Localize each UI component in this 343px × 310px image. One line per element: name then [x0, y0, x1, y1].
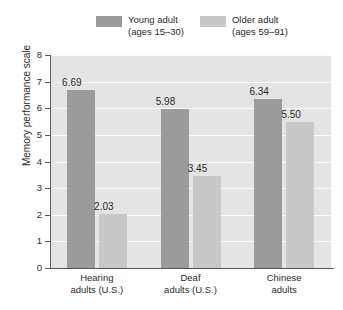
x-axis-category-label-line1: Chinese	[234, 272, 334, 284]
bar	[286, 122, 314, 268]
legend-item-young-adult: Young adult (ages 15–30)	[96, 14, 184, 37]
x-axis-category-label: Deafadults (U.S.)	[141, 272, 241, 296]
bar-value-label: 6.34	[236, 87, 282, 97]
legend-swatch-older-adult	[200, 16, 226, 27]
y-axis-tick	[45, 268, 50, 269]
y-axis-tick-label: 4	[0, 157, 42, 167]
y-axis-tick	[45, 241, 50, 242]
x-axis-line	[50, 268, 334, 269]
legend-label-young-adult-line2: (ages 15–30)	[128, 26, 184, 38]
x-axis-category-label: Hearingadults (U.S.)	[47, 272, 147, 296]
y-axis-tick-label: 0	[0, 263, 42, 273]
legend-label-young-adult: Young adult (ages 15–30)	[128, 14, 184, 37]
bar	[99, 214, 127, 268]
y-axis-tick	[45, 188, 50, 189]
y-axis-tick-label: 6	[0, 103, 42, 113]
y-axis-tick	[45, 215, 50, 216]
legend-item-older-adult: Older adult (ages 59–91)	[200, 14, 288, 37]
y-axis-tick	[45, 162, 50, 163]
memory-performance-bar-chart: Young adult (ages 15–30) Older adult (ag…	[0, 0, 343, 310]
legend-label-older-adult-line1: Older adult	[232, 14, 288, 26]
bar	[67, 90, 95, 268]
y-axis-tick-label: 8	[0, 50, 42, 60]
bar	[254, 99, 282, 268]
bar	[193, 176, 221, 268]
legend-swatch-young-adult	[96, 16, 122, 27]
chart-legend: Young adult (ages 15–30) Older adult (ag…	[96, 14, 288, 37]
x-axis-category-label-line2: adults	[234, 284, 334, 296]
bar-value-label: 5.98	[143, 97, 189, 107]
y-axis-tick-label: 7	[0, 77, 42, 87]
x-axis-category-label-line2: adults (U.S.)	[47, 284, 147, 296]
y-axis-tick-label: 3	[0, 183, 42, 193]
legend-label-young-adult-line1: Young adult	[128, 14, 184, 26]
y-axis-tick	[45, 135, 50, 136]
x-axis-category-label-line1: Deaf	[141, 272, 241, 284]
x-axis-category-label-line2: adults (U.S.)	[141, 284, 241, 296]
bar	[161, 109, 189, 268]
legend-label-older-adult-line2: (ages 59–91)	[232, 26, 288, 38]
bar-value-label: 2.03	[81, 202, 127, 212]
x-axis-category-label-line1: Hearing	[47, 272, 147, 284]
y-axis-tick-label: 2	[0, 210, 42, 220]
y-axis-tick-label: 5	[0, 130, 42, 140]
legend-label-older-adult: Older adult (ages 59–91)	[232, 14, 288, 37]
bar-value-label: 6.69	[49, 78, 95, 88]
x-axis-category-label: Chineseadults	[234, 272, 334, 296]
bar-value-label: 3.45	[175, 164, 221, 174]
y-axis-tick	[45, 55, 50, 56]
y-axis-tick-label: 1	[0, 236, 42, 246]
gridline	[50, 55, 331, 56]
bar-value-label: 5.50	[268, 110, 314, 120]
y-axis-tick	[45, 108, 50, 109]
